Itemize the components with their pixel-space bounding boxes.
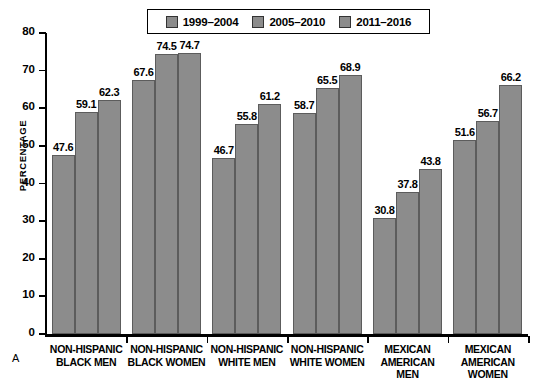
category-label-line: WOMEN xyxy=(442,368,534,381)
x-axis-tick-mark xyxy=(448,336,450,343)
y-axis-tick-label: 0 xyxy=(8,326,35,338)
category-label-line: NON-HISPANIC xyxy=(40,343,132,356)
bar xyxy=(419,169,442,334)
y-axis-tick-mark xyxy=(39,295,46,297)
legend: 1999–20042005–20102011–2016 xyxy=(147,9,430,34)
bar xyxy=(373,218,396,334)
y-axis-tick-mark xyxy=(39,333,46,335)
y-axis-tick-mark xyxy=(39,32,46,34)
bar-value-label: 43.8 xyxy=(414,155,448,167)
y-axis-tick-mark xyxy=(39,70,46,72)
y-axis-tick-mark xyxy=(39,183,46,185)
x-axis-tick-mark xyxy=(126,336,128,343)
bar xyxy=(293,113,316,334)
x-axis-tick-mark xyxy=(287,336,289,343)
y-axis-tick-label: 30 xyxy=(8,213,35,225)
y-axis-tick-mark xyxy=(39,145,46,147)
y-axis-tick-mark xyxy=(39,220,46,222)
category-label-line: NON-HISPANIC xyxy=(201,343,293,356)
x-axis-tick-mark xyxy=(207,336,209,343)
bar xyxy=(396,192,419,334)
bar-value-label: 74.7 xyxy=(173,39,207,51)
bar xyxy=(235,124,258,334)
bar-chart: PERCENTAGE 01020304050607080 47.659.162.… xyxy=(0,0,552,390)
bar-value-label: 66.2 xyxy=(494,71,528,83)
bar xyxy=(75,112,98,334)
y-axis-tick-label: 80 xyxy=(8,25,35,37)
category-label-line: BLACK WOMEN xyxy=(120,356,212,369)
category-label-line: NON-HISPANIC xyxy=(120,343,212,356)
category-label-line: AMERICAN xyxy=(442,356,534,369)
legend-item-label: 2011–2016 xyxy=(356,16,411,28)
bar xyxy=(212,158,235,334)
y-axis-line xyxy=(45,33,47,336)
y-axis-tick-label: 10 xyxy=(8,288,35,300)
legend-item: 1999–2004 xyxy=(166,16,239,28)
bar xyxy=(52,155,75,334)
bar xyxy=(132,80,155,334)
bar xyxy=(155,54,178,334)
bar xyxy=(316,88,339,334)
x-axis-category-label: MEXICANAMERICANWOMEN xyxy=(442,343,534,381)
category-label-line: WHITE WOMEN xyxy=(281,356,373,369)
bar xyxy=(339,75,362,334)
bar xyxy=(98,100,121,334)
category-label-line: MEXICAN xyxy=(361,343,453,356)
y-axis-tick-mark xyxy=(39,107,46,109)
y-axis-tick-label: 20 xyxy=(8,251,35,263)
y-axis-tick-label: 60 xyxy=(8,100,35,112)
x-axis-tick-mark xyxy=(367,336,369,343)
bar xyxy=(258,104,281,334)
bar-value-label: 62.3 xyxy=(92,86,126,98)
bar xyxy=(499,85,522,334)
y-axis-tick-label: 70 xyxy=(8,63,35,75)
bar xyxy=(476,121,499,334)
legend-swatch-icon xyxy=(339,16,351,28)
legend-item-label: 2005–2010 xyxy=(269,16,325,28)
bar xyxy=(453,140,476,334)
category-label-line: AMERICAN xyxy=(361,356,453,369)
bar-value-label: 68.9 xyxy=(333,61,367,73)
bar-value-label: 61.2 xyxy=(253,90,287,102)
legend-item: 2005–2010 xyxy=(252,16,325,28)
category-label-line: WHITE MEN xyxy=(201,356,293,369)
x-axis-category-label: NON-HISPANICWHITE WOMEN xyxy=(281,343,373,368)
y-axis-tick-label: 50 xyxy=(8,138,35,150)
x-axis-tick-mark xyxy=(528,336,530,343)
category-label-line: BLACK MEN xyxy=(40,356,132,369)
x-axis-category-label: NON-HISPANICWHITE MEN xyxy=(201,343,293,368)
y-axis-tick-mark xyxy=(39,258,46,260)
category-label-line: MEXICAN xyxy=(442,343,534,356)
y-axis-label: PERCENTAGE xyxy=(17,96,28,216)
legend-swatch-icon xyxy=(166,16,178,28)
y-axis-tick-label: 40 xyxy=(8,176,35,188)
x-axis-category-label: NON-HISPANICBLACK MEN xyxy=(40,343,132,368)
x-axis-category-label: NON-HISPANICBLACK WOMEN xyxy=(120,343,212,368)
category-label-line: MEN xyxy=(361,368,453,381)
panel-letter: A xyxy=(12,352,19,364)
legend-item-label: 1999–2004 xyxy=(183,16,239,28)
category-label-line: NON-HISPANIC xyxy=(281,343,373,356)
x-axis-category-label: MEXICANAMERICANMEN xyxy=(361,343,453,381)
legend-swatch-icon xyxy=(252,16,264,28)
bar xyxy=(178,53,201,334)
legend-item: 2011–2016 xyxy=(339,16,411,28)
